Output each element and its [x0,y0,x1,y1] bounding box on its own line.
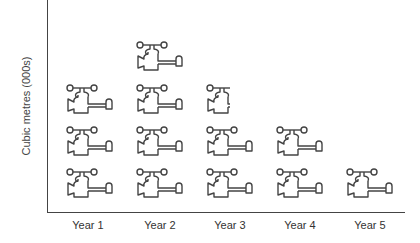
water-tap-icon [134,168,186,200]
water-tap-icon [64,168,116,200]
x-tick-label: Year 4 [284,219,315,231]
water-tap-icon [134,41,186,73]
water-tap-icon [204,126,256,158]
x-tick-label: Year 1 [72,219,103,231]
x-tick-label: Year 2 [144,219,175,231]
y-axis [47,0,48,213]
water-tap-icon [134,126,186,158]
x-tick-label: Year 5 [354,219,385,231]
x-axis [47,212,405,213]
water-tap-icon [134,84,186,116]
y-axis-label: Cubic metres (000s) [20,56,32,155]
water-tap-icon [204,84,230,116]
x-tick-label: Year 3 [214,219,245,231]
water-tap-icon [64,126,116,158]
water-tap-icon [274,126,326,158]
water-tap-icon [64,84,116,116]
water-tap-icon [274,168,326,200]
water-tap-icon [344,168,396,200]
water-tap-icon [204,168,256,200]
